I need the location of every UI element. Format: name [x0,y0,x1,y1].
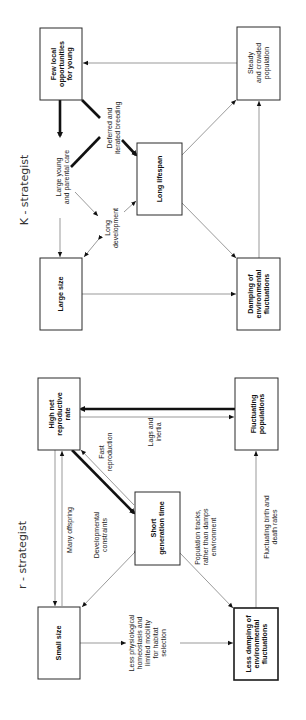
svg-text:selection: selection [160,629,167,657]
svg-text:populations: populations [257,394,266,435]
svg-text:Long lifespan: Long lifespan [155,156,164,203]
box-high-net-reproductive-rate: High net reproductive rate [38,378,80,450]
label-less-physiological-homeostasis: Less physiological homeostasis and limit… [128,614,167,671]
svg-text:Large size: Large size [56,276,65,311]
box-less-damping-environmental-fluctuations: Less damping of environmental fluctuatio… [234,608,278,680]
r-strategist-title: r - strategist [16,520,29,589]
svg-text:and parental care: and parental care [63,150,71,205]
svg-text:for young: for young [65,47,74,80]
box-long-lifespan: Long lifespan [137,143,182,215]
svg-text:rate: rate [63,407,72,420]
svg-text:Small size: Small size [54,626,63,661]
label-many-offspring: Many offspring [66,507,74,553]
label-large-young-parental-care: Large young and parental care [55,150,71,205]
svg-text:death rates: death rates [271,509,278,545]
box-small-size: Small size [38,607,80,679]
svg-text:environment: environment [210,518,217,557]
svg-text:for habitat: for habitat [152,627,159,658]
svg-text:Population tracks,: Population tracks, [194,509,202,565]
svg-text:Fast: Fast [98,445,105,459]
r-strategist-diagram: r - strategist [16,378,278,680]
svg-text:development: development [112,208,120,248]
label-lags-and-inertia: Lags and inertia [147,417,162,446]
svg-text:Many offspring: Many offspring [66,507,74,553]
svg-text:Steady: Steady [247,52,255,74]
strategist-diagram: K - strategist [0,0,306,720]
label-fast-reproduction: Fast reproduction [98,432,114,471]
label-population-tracks: Population tracks, rather than damps env… [194,508,217,565]
box-short-generation-time: Short generation time [135,492,180,565]
label-developmental-constraints: Developmental constraints [93,511,108,558]
label-fluctuating-birth-death-rates: Fluctuating birth and death rates [263,495,278,559]
svg-text:fluctuations: fluctuations [260,624,269,665]
box-fluctuating-populations: Fluctuating populations [235,378,278,450]
k-strategist-title: K - strategist [18,154,31,225]
k-strategist-diagram: K - strategist [18,27,280,330]
svg-text:iterated breeding: iterated breeding [114,102,122,155]
svg-text:limited mobility: limited mobility [144,620,152,666]
svg-text:Deferred and: Deferred and [106,107,113,148]
svg-text:inertia: inertia [155,422,162,441]
svg-text:Large young: Large young [55,157,63,196]
box-large-size: Large size [40,258,82,330]
svg-text:Lags and: Lags and [147,417,155,446]
svg-text:population: population [263,47,271,79]
svg-text:and crowded: and crowded [255,43,262,83]
svg-text:fluctuations: fluctuations [262,274,271,315]
box-steady-crowded-population: Steady and crowded population [237,27,280,100]
svg-text:generation time: generation time [157,501,166,555]
svg-text:reproduction: reproduction [106,432,114,471]
svg-text:rather than damps: rather than damps [202,508,210,565]
box-damping-environmental-fluctuations: Damping of environmental fluctuations [237,258,280,330]
svg-text:constraints: constraints [101,518,108,552]
svg-text:Developmental: Developmental [93,511,101,558]
label-deferred-iterated-breeding: Deferred and iterated breeding [106,102,122,155]
svg-text:Less physiological: Less physiological [128,614,136,671]
label-long-development: Long development [104,208,120,248]
svg-text:Fluctuating birth and: Fluctuating birth and [263,495,271,559]
svg-text:Long: Long [104,220,112,236]
box-few-local-opportunities: Few local opportunities for young [40,28,82,100]
svg-text:homeostasis and: homeostasis and [136,616,143,669]
